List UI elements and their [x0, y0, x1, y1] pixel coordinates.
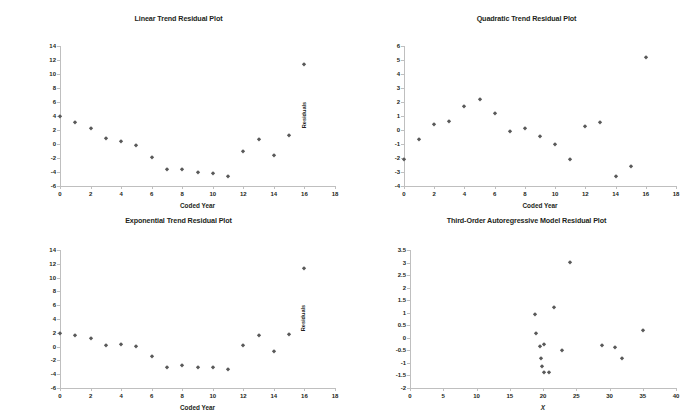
y-tick — [401, 130, 404, 131]
y-tick-label: 14 — [36, 247, 56, 253]
y-axis-line — [410, 250, 411, 388]
data-point — [641, 328, 645, 332]
y-tick-label: 0 — [380, 335, 406, 341]
x-tick-label: 30 — [606, 393, 613, 399]
x-tick — [213, 186, 214, 189]
y-tick — [407, 338, 410, 339]
data-point — [533, 313, 537, 317]
data-point — [119, 342, 123, 346]
y-tick — [407, 363, 410, 364]
y-tick-label: 2 — [382, 99, 400, 105]
chart-panel-exponential-trend-residual-plot: Exponential Trend Residual PlotResiduals… — [8, 216, 349, 406]
y-tick-label: 6 — [36, 302, 56, 308]
y-tick — [57, 360, 60, 361]
data-point — [447, 119, 451, 123]
y-tick-label: 4 — [36, 113, 56, 119]
y-tick-label: -1.5 — [380, 372, 406, 378]
x-tick-label: 10 — [552, 191, 559, 197]
x-tick-label: 4 — [119, 191, 122, 197]
data-point — [538, 344, 542, 348]
y-tick-label: 5 — [382, 57, 400, 63]
x-tick-label: 40 — [673, 393, 680, 399]
y-tick-label: -1 — [380, 360, 406, 366]
y-tick — [57, 144, 60, 145]
data-point — [614, 174, 618, 178]
x-tick-label: 35 — [639, 393, 646, 399]
x-tick-label: 12 — [582, 191, 589, 197]
y-tick — [57, 319, 60, 320]
x-tick — [335, 388, 336, 391]
x-tick-label: 8 — [181, 191, 184, 197]
data-point — [89, 126, 93, 130]
y-tick-label: -2 — [36, 155, 56, 161]
y-tick — [57, 291, 60, 292]
x-tick-label: 16 — [301, 191, 308, 197]
x-tick-label: 0 — [58, 191, 61, 197]
y-tick — [407, 263, 410, 264]
data-point — [73, 333, 77, 337]
chart-title: Linear Trend Residual Plot — [8, 14, 349, 23]
y-tick-label: -1 — [382, 141, 400, 147]
x-tick — [443, 388, 444, 391]
data-point — [629, 164, 633, 168]
data-point — [226, 367, 230, 371]
y-tick-label: 1 — [382, 113, 400, 119]
x-tick — [616, 186, 617, 189]
y-tick-label: 1.5 — [380, 297, 406, 303]
x-tick-label: 18 — [332, 393, 339, 399]
y-tick — [407, 375, 410, 376]
x-tick-label: 10 — [473, 393, 480, 399]
x-tick-label: 12 — [240, 191, 247, 197]
data-point — [196, 365, 200, 369]
data-point — [257, 137, 261, 141]
data-point — [417, 137, 421, 141]
y-tick-label: 8 — [36, 85, 56, 91]
data-point — [599, 120, 603, 124]
y-tick-label: 14 — [36, 43, 56, 49]
x-tick — [676, 186, 677, 189]
data-point — [644, 55, 648, 59]
x-tick-label: 18 — [332, 191, 339, 197]
y-tick — [57, 278, 60, 279]
x-axis-title: Coded Year — [60, 202, 335, 209]
data-point — [600, 344, 604, 348]
data-point — [211, 171, 215, 175]
y-tick — [57, 130, 60, 131]
data-point — [620, 356, 624, 360]
x-axis-line — [404, 186, 676, 187]
y-tick-label: 0 — [382, 127, 400, 133]
y-tick-label: -4 — [382, 183, 400, 189]
y-tick — [57, 46, 60, 47]
y-tick — [57, 172, 60, 173]
data-point — [478, 97, 482, 101]
y-tick-label: -2 — [36, 357, 56, 363]
y-tick-label: 12 — [36, 261, 56, 267]
x-tick — [304, 186, 305, 189]
page-top-artifact-strip — [0, 0, 699, 9]
y-tick-label: 0.5 — [380, 322, 406, 328]
data-point — [287, 133, 291, 137]
x-tick-label: 10 — [209, 191, 216, 197]
y-tick — [57, 264, 60, 265]
data-point — [432, 122, 436, 126]
x-tick — [585, 186, 586, 189]
x-tick-label: 5 — [442, 393, 445, 399]
y-tick — [57, 74, 60, 75]
data-point — [180, 167, 184, 171]
y-tick — [57, 347, 60, 348]
x-tick — [274, 388, 275, 391]
x-tick — [243, 388, 244, 391]
data-point — [287, 332, 291, 336]
data-point — [542, 342, 546, 346]
x-tick — [335, 186, 336, 189]
y-tick-label: -0.5 — [380, 347, 406, 353]
y-axis-line — [60, 250, 61, 388]
data-point — [523, 126, 527, 130]
data-point — [150, 354, 154, 358]
data-point — [135, 344, 139, 348]
y-tick-label: 6 — [36, 99, 56, 105]
data-point — [540, 364, 544, 368]
x-tick — [434, 186, 435, 189]
data-point — [463, 104, 467, 108]
